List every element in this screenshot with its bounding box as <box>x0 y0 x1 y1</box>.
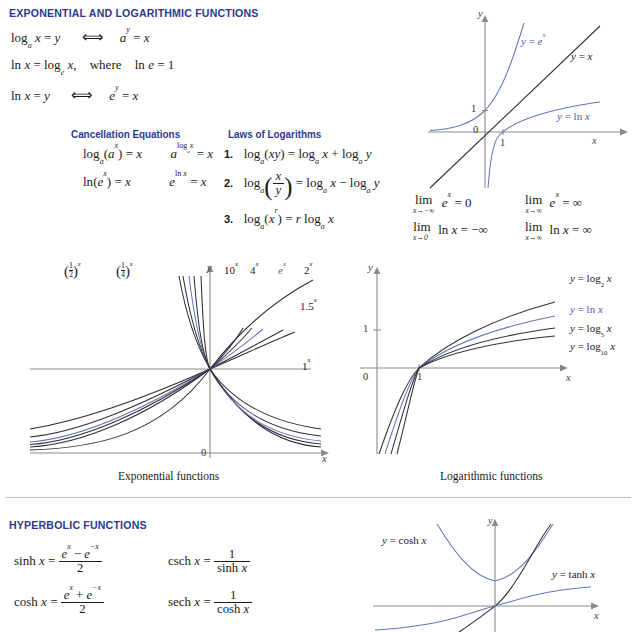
definition-log-exponential: loga x = y ⟺ ay = x <box>11 28 150 46</box>
figure-exponential-svg <box>25 258 335 468</box>
subheading-laws-of-logarithms: Laws of Logarithms <box>228 128 321 140</box>
figure2-x-axis-label: x <box>322 453 327 464</box>
figure4-label-tanh: y = tanh x <box>552 568 595 580</box>
figure2-label-1point5-power-x: 1.5x <box>300 300 317 312</box>
definition-ln-exponential: ln x = y ⟺ ey = x <box>11 86 138 104</box>
figure1-y-tick-1: 1 <box>471 103 476 114</box>
cancellation-row-1: loga(ax) = x alogax = x <box>83 146 213 162</box>
figure2-caption: Exponential functions <box>118 470 219 482</box>
law-3: 3. loga(xr) = r loga x <box>224 211 334 227</box>
figure1-curve-label-exp: y = ex <box>521 35 546 47</box>
figure1-x-tick-1: 1 <box>500 137 505 148</box>
figure1-x-axis-label: x <box>592 135 597 146</box>
figure2-label-half-power-x: (12)x <box>64 262 81 280</box>
cancellation-row-2: ln(ex) = x eln x = x <box>83 174 207 190</box>
law-2: 2. loga(xy) = loga x − loga y <box>224 170 380 201</box>
figure3-caption: Logarithmic functions <box>440 470 543 482</box>
figure2-origin-tick: 0 <box>201 447 206 458</box>
figure1-curve-label-ln: y = ln x <box>557 110 590 122</box>
figure1-curve-label-identity: y = x <box>571 50 593 62</box>
page-title-exponential-logarithmic: EXPONENTIAL AND LOGARITHMIC FUNCTIONS <box>9 7 259 19</box>
figure2-label-10-power-x: 10x <box>224 264 238 276</box>
figure-logarithmic-svg <box>355 258 635 458</box>
formula-sech: sech x = 1cosh x <box>168 589 252 617</box>
section-title-hyperbolic: HYPERBOLIC FUNCTIONS <box>9 519 147 531</box>
figure3-x-tick-1: 1 <box>417 371 422 382</box>
figure2-label-quarter-power-x: (14)x <box>116 262 133 280</box>
figure3-label-ln: y = ln x <box>570 303 603 315</box>
definition-natural-log: ln x = loge x, where ln e = 1 <box>11 57 174 73</box>
subheading-cancellation-equations: Cancellation Equations <box>71 128 180 140</box>
limit-ln-infinity: limx→∞ ln x = ∞ <box>525 220 592 242</box>
figure4-y-axis-label: y <box>488 515 493 526</box>
formula-csch: csch x = 1sinh x <box>168 548 250 576</box>
figure2-label-e-power-x: ex <box>278 264 286 276</box>
limit-exp-neg-infinity: limx→−∞ ex = 0 <box>413 193 471 215</box>
figure2-label-2-power-x: 2x <box>304 264 313 276</box>
figure1-y-axis-label: y <box>478 8 483 19</box>
limit-exp-pos-infinity: limx→∞ ex = ∞ <box>525 193 582 215</box>
figure2-y-axis-label: y <box>207 262 212 273</box>
figure3-label-log2: y = log2 x <box>570 272 612 284</box>
figure-exp-ln-svg <box>400 0 637 190</box>
figure1-origin-tick: 0 <box>473 124 478 135</box>
law-1: 1. loga(xy) = loga x + loga y <box>224 146 372 162</box>
figure3-label-log10: y = log10 x <box>570 340 615 352</box>
figure3-origin-tick: 0 <box>363 371 368 382</box>
figure3-y-tick-1: 1 <box>363 323 368 334</box>
figure3-y-axis-label: y <box>368 262 373 273</box>
formula-cosh: cosh x = ex + e−x2 <box>14 589 104 617</box>
figure2-label-1-power-x: 1x <box>302 360 311 372</box>
figure2-label-4-power-x: 4x <box>250 264 259 276</box>
figure4-label-cosh: y = cosh x <box>382 534 426 546</box>
figure3-x-axis-label: x <box>566 372 571 383</box>
limit-ln-zero-plus: limx→0+ ln x = −∞ <box>413 220 488 242</box>
formula-sinh: sinh x = ex − e−x2 <box>14 548 102 576</box>
figure3-label-log5: y = log5 x <box>570 322 612 334</box>
figure4-x-axis-label: x <box>594 610 599 621</box>
section-divider <box>6 497 631 498</box>
